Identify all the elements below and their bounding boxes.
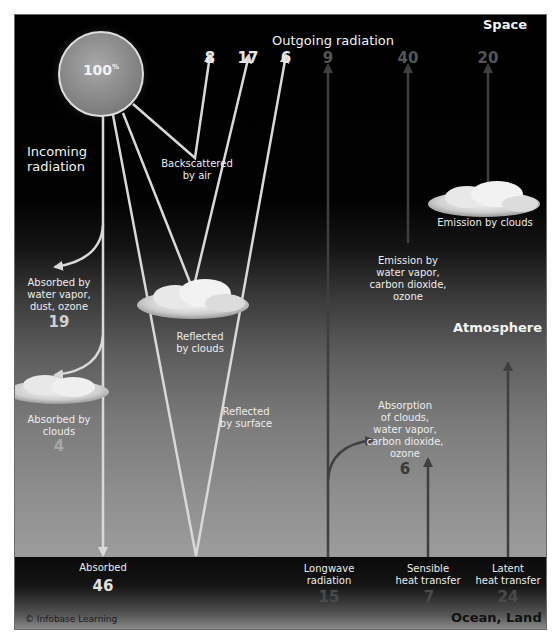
outgoing-radiation-heading: Outgoing radiation (272, 33, 394, 48)
value-sensible: 7 (413, 588, 445, 606)
label-sensible: Sensible heat transfer (388, 563, 468, 587)
label-absorbed-clouds: Absorbed by clouds (21, 414, 97, 438)
label-reflected-surface: Reflected by surface (211, 406, 281, 430)
credit-text: © Infobase Learning (25, 614, 117, 624)
label-backscattered: Backscattered by air (157, 158, 237, 182)
sun-value: 100% (71, 62, 131, 78)
cloud-emitting-icon (428, 181, 540, 217)
region-space: Space (483, 17, 527, 32)
value-longwave-out: 9 (317, 49, 339, 67)
value-backscattered: 8 (199, 49, 221, 67)
label-longwave: Longwave radiation (298, 563, 360, 587)
value-absorbed-vapor: 19 (39, 313, 79, 331)
value-reflected-clouds: 17 (233, 49, 263, 67)
label-emission-gases: Emission by water vapor, carbon dioxide,… (358, 255, 458, 303)
incoming-radiation-heading: Incoming radiation (27, 144, 87, 174)
energy-budget-diagram: 100% Space Atmosphere Ocean, Land Incomi… (14, 14, 547, 630)
value-absorption-atmosphere: 6 (390, 460, 420, 478)
value-latent: 24 (492, 588, 524, 606)
label-reflected-clouds: Reflected by clouds (165, 331, 235, 355)
label-emission-clouds: Emission by clouds (430, 217, 540, 229)
value-longwave: 15 (313, 588, 345, 606)
label-absorption-atmosphere: Absorption of clouds, water vapor, carbo… (355, 400, 455, 460)
value-absorbed-clouds: 4 (39, 437, 79, 455)
value-absorbed-surface: 46 (83, 577, 123, 595)
cloud-absorbing-icon (15, 375, 109, 404)
value-emission-gases: 40 (393, 49, 423, 67)
value-reflected-surface: 6 (275, 49, 297, 67)
label-latent: Latent heat transfer (467, 563, 547, 587)
label-absorbed-vapor: Absorbed by water vapor, dust, ozone (21, 277, 97, 313)
label-absorbed-surface: Absorbed (73, 562, 133, 574)
outgoing-radiation-arrows (328, 65, 508, 557)
value-emission-clouds: 20 (473, 49, 503, 67)
cloud-reflecting-icon (137, 279, 249, 319)
region-ocean-land: Ocean, Land (451, 610, 542, 625)
region-atmosphere: Atmosphere (453, 320, 542, 335)
